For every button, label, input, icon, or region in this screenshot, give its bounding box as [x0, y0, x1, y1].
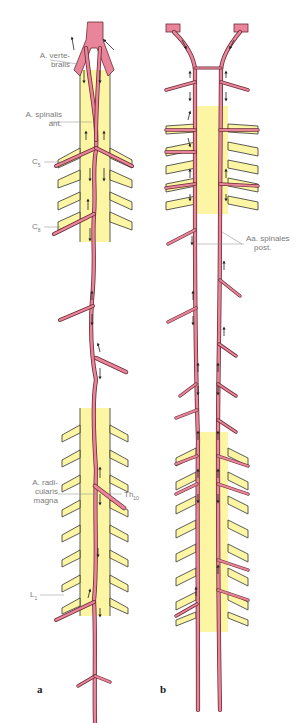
- cervical-cord-segment-b: [166, 106, 258, 214]
- label-posterior-spinal-arteries: Aa. spinales post.: [246, 234, 290, 252]
- panel-label-a: a: [37, 683, 43, 695]
- panel-b-diagram: [166, 24, 258, 710]
- label-radicularis-line2: cularis: [4, 487, 58, 496]
- label-anterior-spinal-line1: A. spinalis: [6, 110, 62, 119]
- label-c8: C8: [32, 222, 41, 235]
- label-vertebral-artery: A. verte- bralis: [14, 51, 70, 69]
- label-anterior-spinal-line2: ant.: [6, 119, 62, 128]
- label-l1-sub: 1: [34, 595, 37, 601]
- label-vertebral-line2: bralis: [14, 60, 70, 69]
- label-c5-sub: 5: [38, 162, 41, 168]
- label-radicularis-line1: A. radi-: [4, 478, 58, 487]
- label-th10-sub: 10: [133, 495, 139, 501]
- label-radicularis-line3: magna: [4, 496, 58, 505]
- label-posterior-spinal-line1: Aa. spinales: [246, 234, 290, 243]
- label-anterior-spinal-artery: A. spinalis ant.: [6, 110, 62, 128]
- label-radicularis-magna: A. radi- cularis magna: [4, 478, 58, 505]
- panel-label-b: b: [160, 683, 166, 695]
- label-th10-letters: Th: [124, 490, 133, 499]
- label-l1: L1: [30, 590, 37, 603]
- vertebral-artery: [74, 22, 114, 76]
- label-c5: C5: [32, 157, 41, 170]
- label-th10: Th10: [124, 490, 139, 503]
- label-c8-sub: 8: [38, 227, 41, 233]
- spinal-artery-diagram: [0, 0, 301, 723]
- label-posterior-spinal-line2: post.: [246, 243, 290, 252]
- label-vertebral-line1: A. verte-: [14, 51, 70, 60]
